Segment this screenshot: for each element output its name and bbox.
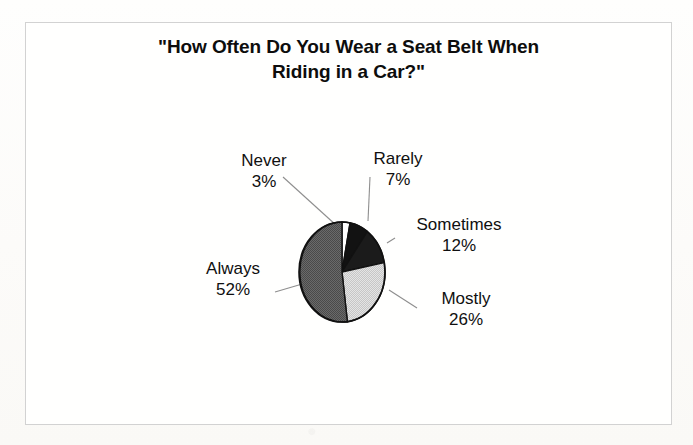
pie-label-never-name: Never bbox=[221, 150, 307, 171]
pie-label-sometimes-name: Sometimes bbox=[394, 214, 524, 235]
pie-label-sometimes-value: 12% bbox=[394, 235, 524, 256]
pie-chart-plot-area: Never 3% Rarely 7% Sometimes 12% Mostly … bbox=[25, 22, 672, 425]
pie-svg bbox=[25, 22, 672, 425]
pie-slice-always[interactable] bbox=[300, 222, 348, 322]
pie-label-never: Never 3% bbox=[221, 150, 307, 192]
pie-label-mostly-value: 26% bbox=[418, 309, 514, 330]
pie-label-always-value: 52% bbox=[185, 279, 281, 300]
pie-label-mostly-name: Mostly bbox=[418, 288, 514, 309]
pie-label-mostly: Mostly 26% bbox=[418, 288, 514, 330]
pie-slice-mostly[interactable] bbox=[342, 263, 385, 322]
pie-label-always: Always 52% bbox=[185, 258, 281, 300]
pie-label-rarely-value: 7% bbox=[358, 169, 438, 190]
pie-label-always-name: Always bbox=[185, 258, 281, 279]
pie-label-rarely: Rarely 7% bbox=[358, 148, 438, 190]
pie-label-never-value: 3% bbox=[221, 171, 307, 192]
pie-label-rarely-name: Rarely bbox=[358, 148, 438, 169]
pie-label-sometimes: Sometimes 12% bbox=[394, 214, 524, 256]
leader-line-mostly bbox=[389, 290, 417, 308]
